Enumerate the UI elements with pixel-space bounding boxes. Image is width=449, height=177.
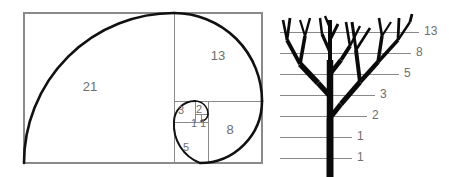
twig-l4: [283, 20, 287, 40]
tree-label-gen-8: 8: [416, 45, 423, 59]
branch-r1b: [341, 82, 360, 104]
square-label-1-b: 1: [200, 117, 206, 129]
tree-label-gen-5: 5: [404, 66, 411, 80]
tree-label-gen-1a: 1: [357, 150, 364, 164]
tree-label-gen-3: 3: [380, 87, 387, 101]
outer-rectangle: [24, 13, 262, 163]
twig-l1: [305, 18, 310, 36]
tree-label-gen-2: 2: [372, 108, 379, 122]
branch-r2: [356, 50, 360, 82]
tree-label-gen-1b: 1: [357, 129, 364, 143]
fibonacci-tree-svg: 1 1 2 3 5 8 13: [275, 0, 449, 177]
square-label-2: 2: [196, 103, 202, 115]
twig-2: [382, 22, 391, 36]
branch-m1b: [341, 46, 350, 60]
square-label-21: 21: [83, 79, 97, 94]
twig-1: [379, 18, 382, 36]
square-label-1-a: 1: [191, 117, 197, 129]
spiral-arc-21: [24, 13, 174, 163]
twig-ul1: [320, 18, 322, 34]
branch-l3: [287, 40, 300, 64]
square-label-8: 8: [226, 122, 233, 137]
square-label-13: 13: [211, 48, 225, 63]
branch-l2: [300, 36, 305, 64]
branch-r3: [360, 62, 378, 82]
twig-l2: [300, 20, 305, 36]
square-label-5: 5: [183, 141, 189, 153]
fibonacci-tree-panel: 1 1 2 3 5 8 13: [275, 0, 449, 177]
square-label-3: 3: [178, 104, 184, 116]
golden-rectangle-svg: 21 13 8 5 3 2 1 1: [0, 0, 275, 177]
twig-5: [410, 14, 412, 22]
fibonacci-figure: 21 13 8 5 3 2 1 1: [0, 0, 449, 177]
golden-rectangle-panel: 21 13 8 5 3 2 1 1: [0, 0, 275, 177]
twig-m1: [346, 22, 350, 46]
branch-l1b: [300, 64, 318, 83]
tree-label-gen-13: 13: [424, 24, 438, 38]
